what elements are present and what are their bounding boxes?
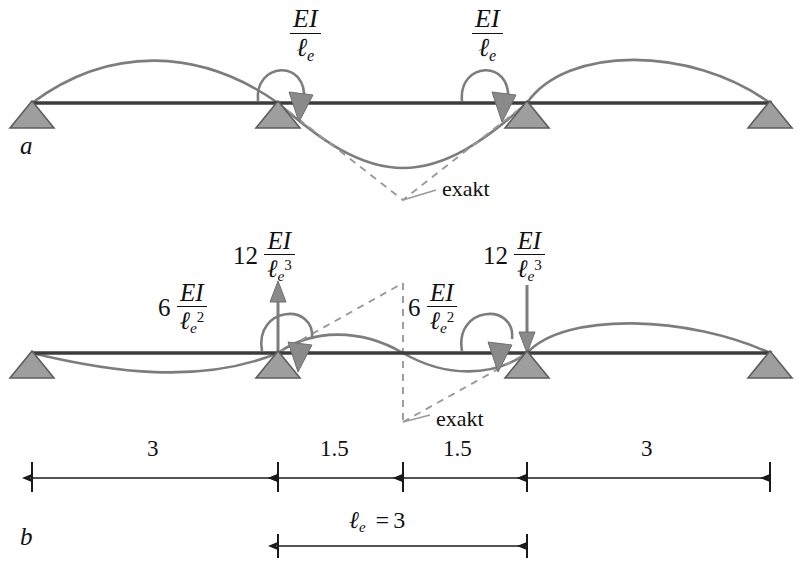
num-moment-left-b: EI (177, 280, 208, 307)
panel-letter-b: b (20, 524, 33, 549)
element-length-symbol: ℓ (349, 507, 359, 533)
coef-moment-left-b: 6 (158, 295, 175, 320)
label-moment-right-a: EIℓe (466, 6, 505, 64)
moment-arrowhead-left-a (289, 92, 313, 122)
label-moment-right-b: 6EIℓe2 (408, 280, 459, 336)
dim-label-1: 3 (147, 437, 159, 460)
element-length-sub: e (359, 519, 366, 535)
num-moment-left-a: EI (290, 6, 321, 34)
support-b-3 (505, 351, 549, 378)
coef-force-right-b: 12 (483, 243, 512, 268)
dim-label-2: 1.5 (320, 437, 349, 460)
element-length-value: 3 (393, 507, 405, 533)
den-force-right-b: ℓ (517, 255, 527, 282)
exakt-label-b: exakt (436, 408, 484, 430)
moment-arrowhead-right-b (488, 342, 512, 372)
den-moment-left-a: ℓ (296, 33, 307, 62)
element-length-dimension (278, 534, 527, 558)
denexp-moment-right-b: 2 (447, 309, 455, 325)
support-b-1 (10, 351, 54, 378)
denexp-force-left-b: 3 (284, 257, 292, 273)
beam-deflection-figure (0, 0, 807, 577)
panel-b (10, 281, 792, 422)
densub-moment-right-b: e (440, 319, 447, 336)
element-length-label: ℓe =3 (349, 508, 405, 535)
deflection-curve-a (32, 60, 770, 168)
label-force-left-b: 12EIℓe3 (233, 228, 297, 284)
num-moment-right-b: EI (427, 280, 458, 307)
deflection-curve-b (32, 323, 770, 372)
exakt-label-a: exakt (442, 178, 490, 200)
support-a-1 (10, 101, 54, 128)
panel-letter-a: a (20, 133, 33, 158)
support-a-4 (748, 101, 792, 128)
label-moment-left-a: EIℓe (284, 6, 323, 64)
dim-label-3: 1.5 (443, 437, 472, 460)
den-moment-left-b: ℓ (180, 307, 190, 334)
den-moment-right-a: ℓ (478, 33, 489, 62)
denexp-force-right-b: 3 (534, 257, 542, 273)
dimension-chain (32, 462, 770, 492)
dim-label-4: 3 (641, 437, 653, 460)
densub-moment-right-a: e (489, 47, 496, 64)
panel-a (10, 60, 792, 200)
label-moment-left-b: 6EIℓe2 (158, 280, 209, 336)
coef-force-left-b: 12 (233, 243, 262, 268)
densub-moment-left-b: e (190, 319, 197, 336)
den-force-left-b: ℓ (267, 255, 277, 282)
moment-arrowhead-right-a (492, 92, 516, 122)
support-b-4 (748, 351, 792, 378)
num-force-left-b: EI (264, 228, 295, 255)
denexp-moment-left-b: 2 (197, 309, 205, 325)
exakt-leader-b (403, 415, 430, 422)
num-moment-right-a: EI (472, 6, 503, 34)
num-force-right-b: EI (514, 228, 545, 255)
exakt-leader-a (403, 190, 436, 200)
element-length-equals: = (372, 507, 394, 533)
support-a-3 (505, 101, 549, 128)
coef-moment-right-b: 6 (408, 295, 425, 320)
densub-moment-left-a: e (307, 47, 314, 64)
den-moment-right-b: ℓ (430, 307, 440, 334)
label-force-right-b: 12EIℓe3 (483, 228, 547, 284)
